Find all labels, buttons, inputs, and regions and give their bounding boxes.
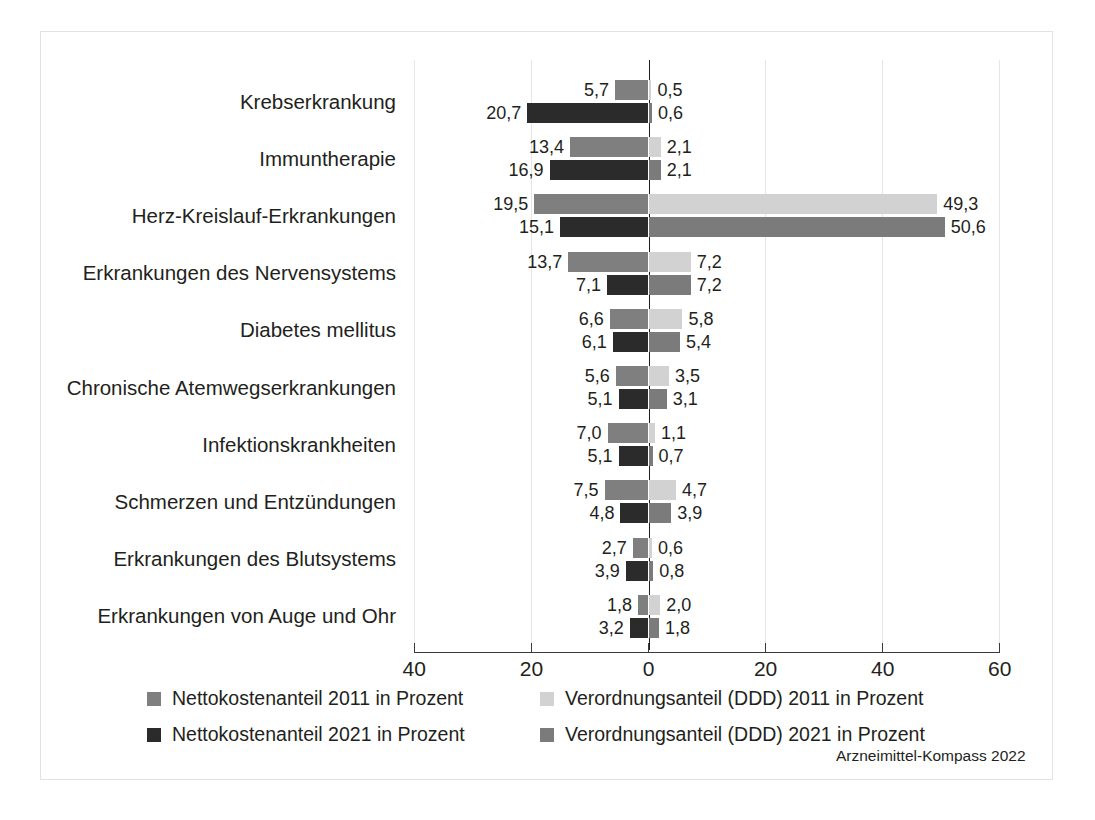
legend-item[interactable]: Verordnungsanteil (DDD) 2011 in Prozent: [540, 687, 923, 710]
category-label: Erkrankungen des Blutsystems: [113, 547, 396, 571]
bar-value-label: 0,6: [658, 103, 683, 124]
bar-left-upper: [608, 423, 649, 443]
bar-right-lower: [649, 217, 945, 237]
bar-value-label: 0,7: [659, 446, 684, 467]
bar-left-lower: [550, 160, 649, 180]
bar-right-upper: [649, 423, 655, 443]
bar-value-label: 0,5: [657, 80, 682, 101]
bar-value-label: 2,1: [667, 160, 692, 181]
bar-right-lower: [649, 618, 660, 638]
gridline-x-20: [765, 60, 766, 650]
bar-value-label: 5,4: [686, 331, 711, 352]
bar-left-upper: [605, 480, 649, 500]
legend-label: Verordnungsanteil (DDD) 2021 in Prozent: [565, 723, 925, 746]
bar-value-label: 7,5: [574, 480, 599, 501]
legend-swatch-icon: [540, 728, 554, 742]
x-tick-0: [648, 643, 649, 653]
category-label: Krebserkrankung: [240, 90, 396, 114]
bar-value-label: 4,8: [589, 503, 614, 524]
bar-value-label: 7,2: [697, 274, 722, 295]
bar-left-upper: [638, 595, 649, 615]
x-axis-line: [414, 652, 1000, 653]
x-tick-20: [765, 643, 766, 653]
legend-item[interactable]: Verordnungsanteil (DDD) 2021 in Prozent: [540, 723, 925, 746]
bar-value-label: 0,6: [658, 537, 683, 558]
legend-swatch-icon: [147, 728, 161, 742]
bar-right-lower: [649, 160, 661, 180]
bar-right-upper: [649, 80, 652, 100]
x-tick-label: 20: [520, 657, 543, 681]
bar-value-label: 49,3: [943, 194, 978, 215]
category-label: Infektionskrankheiten: [202, 433, 396, 457]
bar-right-upper: [649, 137, 661, 157]
category-label: Chronische Atemwegserkrankungen: [67, 376, 396, 400]
gridline-x-40: [882, 60, 883, 650]
bar-value-label: 4,7: [682, 480, 707, 501]
bar-value-label: 0,8: [659, 560, 684, 581]
x-tick-40: [414, 643, 415, 653]
legend-label: Nettokostenanteil 2021 in Prozent: [172, 723, 465, 746]
x-tick-label: 40: [871, 657, 894, 681]
bar-value-label: 6,1: [582, 331, 607, 352]
category-label: Diabetes mellitus: [240, 318, 396, 342]
bar-left-lower: [613, 332, 649, 352]
bar-value-label: 5,1: [588, 389, 613, 410]
bar-left-upper: [615, 80, 648, 100]
category-label: Erkrankungen von Auge und Ohr: [97, 604, 396, 628]
bar-value-label: 16,9: [509, 160, 544, 181]
legend-swatch-icon: [540, 692, 554, 706]
bar-left-lower: [630, 618, 649, 638]
bar-value-label: 50,6: [951, 217, 986, 238]
bar-left-lower: [560, 217, 648, 237]
legend-item[interactable]: Nettokostenanteil 2021 in Prozent: [147, 723, 465, 746]
bar-right-lower: [649, 332, 681, 352]
bar-value-label: 1,1: [661, 423, 686, 444]
x-tick-label: 20: [754, 657, 777, 681]
bar-value-label: 2,7: [602, 537, 627, 558]
legend-swatch-icon: [147, 692, 161, 706]
bar-value-label: 5,6: [585, 366, 610, 387]
bar-value-label: 5,1: [588, 446, 613, 467]
bar-right-upper: [649, 194, 938, 214]
bar-value-label: 3,9: [677, 503, 702, 524]
bar-value-label: 6,6: [579, 308, 604, 329]
bar-value-label: 1,8: [607, 594, 632, 615]
bar-value-label: 7,0: [576, 423, 601, 444]
bar-value-label: 3,1: [673, 389, 698, 410]
figure-root: 40200204060KrebserkrankungImmuntherapieH…: [0, 0, 1095, 820]
bar-left-lower: [620, 503, 648, 523]
legend-label: Nettokostenanteil 2011 in Prozent: [172, 687, 463, 710]
bar-value-label: 7,2: [697, 251, 722, 272]
bar-right-upper: [649, 309, 683, 329]
bar-left-upper: [570, 137, 648, 157]
bar-value-label: 1,8: [665, 617, 690, 638]
bar-right-upper: [649, 480, 677, 500]
bar-value-label: 13,7: [527, 251, 562, 272]
bar-value-label: 3,2: [599, 617, 624, 638]
bar-left-lower: [527, 103, 648, 123]
legend-item[interactable]: Nettokostenanteil 2011 in Prozent: [147, 687, 463, 710]
gridline-x-60: [999, 60, 1000, 650]
bar-value-label: 7,1: [576, 274, 601, 295]
x-tick-60: [999, 643, 1000, 653]
bar-value-label: 13,4: [529, 137, 564, 158]
bar-right-lower: [649, 275, 691, 295]
bar-right-lower: [649, 503, 672, 523]
bar-left-lower: [626, 561, 649, 581]
x-tick-label: 0: [643, 657, 655, 681]
bar-left-upper: [616, 366, 649, 386]
x-tick-label: 40: [403, 657, 426, 681]
bar-right-lower: [649, 389, 667, 409]
bar-value-label: 19,5: [493, 194, 528, 215]
bar-left-upper: [568, 252, 648, 272]
x-tick-40: [882, 643, 883, 653]
bar-value-label: 2,0: [666, 594, 691, 615]
x-tick-20: [531, 643, 532, 653]
bar-right-upper: [649, 252, 691, 272]
bar-value-label: 3,5: [675, 366, 700, 387]
bar-value-label: 2,1: [667, 137, 692, 158]
x-tick-label: 60: [988, 657, 1011, 681]
bar-left-lower: [619, 389, 649, 409]
bar-right-upper: [649, 595, 661, 615]
category-label: Schmerzen und Entzündungen: [114, 490, 396, 514]
